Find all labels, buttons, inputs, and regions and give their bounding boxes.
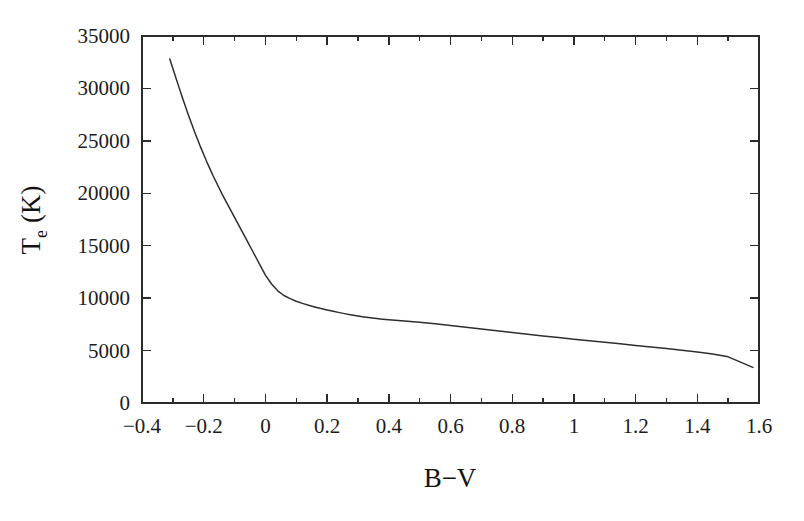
y-axis-title: Te(K) bbox=[16, 186, 51, 255]
y-axis-title-subscript: e bbox=[31, 230, 51, 238]
y-axis-title-label: Te(K) bbox=[16, 186, 51, 255]
chart-figure: −0.4−0.200.20.40.60.811.21.41.6 05000100… bbox=[0, 0, 804, 521]
y-tick-label-5: 25000 bbox=[78, 129, 131, 153]
y-tick-label-4: 20000 bbox=[78, 181, 131, 205]
x-tick-label-7: 1 bbox=[569, 414, 580, 438]
y-tick-label-3: 15000 bbox=[78, 234, 131, 258]
y-axis-title-main: T bbox=[16, 237, 46, 254]
y-axis-title-unit: (K) bbox=[16, 186, 46, 223]
x-tick-label-8: 1.2 bbox=[622, 414, 648, 438]
plot-svg: −0.4−0.200.20.40.60.811.21.41.6 05000100… bbox=[0, 0, 804, 521]
x-tick-label-4: 0.4 bbox=[376, 414, 403, 438]
y-tick-label-0: 0 bbox=[120, 391, 131, 415]
x-tick-label-0: −0.4 bbox=[123, 414, 162, 438]
x-tick-label-1: −0.2 bbox=[185, 414, 223, 438]
x-tick-label-2: 0 bbox=[260, 414, 271, 438]
y-tick-label-6: 30000 bbox=[78, 76, 131, 100]
y-tick-label-2: 10000 bbox=[78, 286, 131, 310]
x-tick-label-5: 0.6 bbox=[437, 414, 463, 438]
x-tick-label-10: 1.6 bbox=[746, 414, 772, 438]
x-tick-label-3: 0.2 bbox=[314, 414, 340, 438]
x-tick-label-6: 0.8 bbox=[499, 414, 525, 438]
x-axis-title-label: B−V bbox=[424, 463, 477, 493]
x-axis-title: B−V bbox=[424, 463, 477, 493]
x-tick-label-9: 1.4 bbox=[684, 414, 711, 438]
y-tick-label-1: 5000 bbox=[88, 339, 130, 363]
y-tick-label-7: 35000 bbox=[78, 24, 131, 48]
